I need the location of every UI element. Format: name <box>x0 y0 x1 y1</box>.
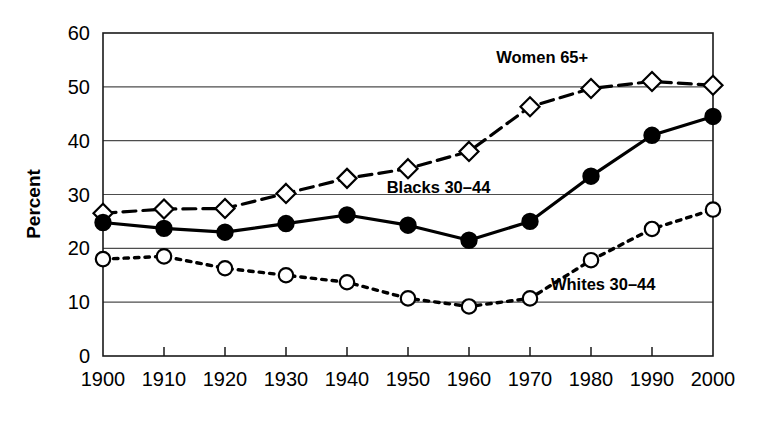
percent-by-group-line-chart: 0102030405060 19001910192019301940195019… <box>0 0 767 422</box>
data-point <box>522 214 537 229</box>
x-tick-label-1920: 1920 <box>203 368 248 390</box>
data-point <box>157 249 171 263</box>
x-tick-label-1910: 1910 <box>142 368 187 390</box>
data-point <box>462 299 476 313</box>
data-point <box>583 169 598 184</box>
data-point <box>644 128 659 143</box>
data-point <box>217 225 232 240</box>
x-axis-tick-labels: 1900191019201930194019501960197019801990… <box>81 368 736 390</box>
data-point <box>523 291 537 305</box>
x-tick-label-1990: 1990 <box>630 368 675 390</box>
x-tick-label-2000: 2000 <box>691 368 736 390</box>
x-tick-label-1960: 1960 <box>447 368 492 390</box>
x-tick-label-1900: 1900 <box>81 368 126 390</box>
x-tick-label-1940: 1940 <box>325 368 370 390</box>
y-tick-label-50: 50 <box>68 76 90 98</box>
data-point <box>584 253 598 267</box>
y-tick-label-0: 0 <box>79 345 90 367</box>
y-tick-label-20: 20 <box>68 237 90 259</box>
data-point <box>461 233 476 248</box>
data-point <box>156 221 171 236</box>
y-axis-label: Percent <box>23 168 44 238</box>
x-tick-label-1930: 1930 <box>264 368 309 390</box>
data-point <box>278 216 293 231</box>
data-point <box>96 252 110 266</box>
y-tick-label-40: 40 <box>68 130 90 152</box>
chart-figure: 0102030405060 19001910192019301940195019… <box>0 0 767 422</box>
y-tick-label-30: 30 <box>68 184 90 206</box>
data-point <box>339 207 354 222</box>
annotation-blacks-30-44: Blacks 30–44 <box>387 178 491 196</box>
data-point <box>705 109 720 124</box>
x-tick-label-1980: 1980 <box>569 368 614 390</box>
x-tick-label-1950: 1950 <box>386 368 431 390</box>
data-point <box>400 218 415 233</box>
data-point <box>218 261 232 275</box>
annotation-whites-30-44: Whites 30–44 <box>551 275 656 293</box>
annotation-women-65-: Women 65+ <box>496 48 588 66</box>
data-point <box>645 222 659 236</box>
data-point <box>401 291 415 305</box>
data-point <box>279 268 293 282</box>
data-point <box>340 275 354 289</box>
y-tick-label-60: 60 <box>68 22 90 44</box>
y-tick-label-10: 10 <box>68 291 90 313</box>
data-point <box>95 215 110 230</box>
data-point <box>706 202 720 216</box>
x-tick-label-1970: 1970 <box>508 368 553 390</box>
